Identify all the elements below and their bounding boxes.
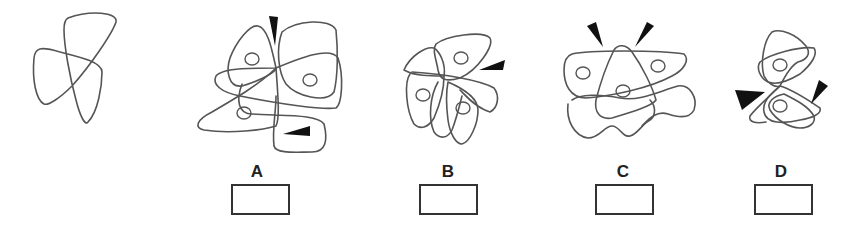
option-c-figure <box>564 22 695 138</box>
arrow-pointer-icon <box>479 60 505 70</box>
option-a-figure <box>198 16 342 152</box>
arrow-pointer-icon <box>269 16 278 46</box>
answer-box-b[interactable] <box>419 184 478 215</box>
answer-box-a[interactable] <box>231 184 290 215</box>
option-a-label: A <box>237 163 277 180</box>
arrow-pointer-icon <box>283 126 310 136</box>
arrow-pointer-icon <box>587 22 603 47</box>
option-d-label: D <box>761 163 801 180</box>
answer-box-c[interactable] <box>595 184 654 215</box>
arrow-pointer-icon <box>735 90 765 110</box>
answer-box-d[interactable] <box>754 184 813 215</box>
reference-shape <box>33 13 116 123</box>
option-c-label: C <box>603 163 643 180</box>
option-d-figure <box>735 31 828 128</box>
arrow-pointer-icon <box>635 22 654 47</box>
arrow-pointer-icon <box>811 80 828 104</box>
option-b-figure <box>404 34 505 144</box>
option-b-label: B <box>428 163 468 180</box>
